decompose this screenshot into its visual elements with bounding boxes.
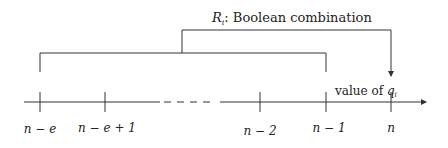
tick-label: n − 1 (312, 121, 345, 135)
diagram-canvas: Ri: Boolean combination value of qi n − … (0, 0, 448, 148)
tick-label: n − e + 1 (78, 121, 136, 135)
tick-label: n − 2 (243, 124, 276, 138)
tick-label: n − e (24, 122, 57, 136)
tick-label: n (387, 121, 395, 135)
tick-labels: n − e n − e + 1 n − 2 n − 1 n (24, 121, 395, 138)
combination-label: Ri: Boolean combination (211, 10, 372, 27)
value-of-q-label: value of qi (334, 84, 397, 99)
window-bracket (40, 53, 326, 72)
